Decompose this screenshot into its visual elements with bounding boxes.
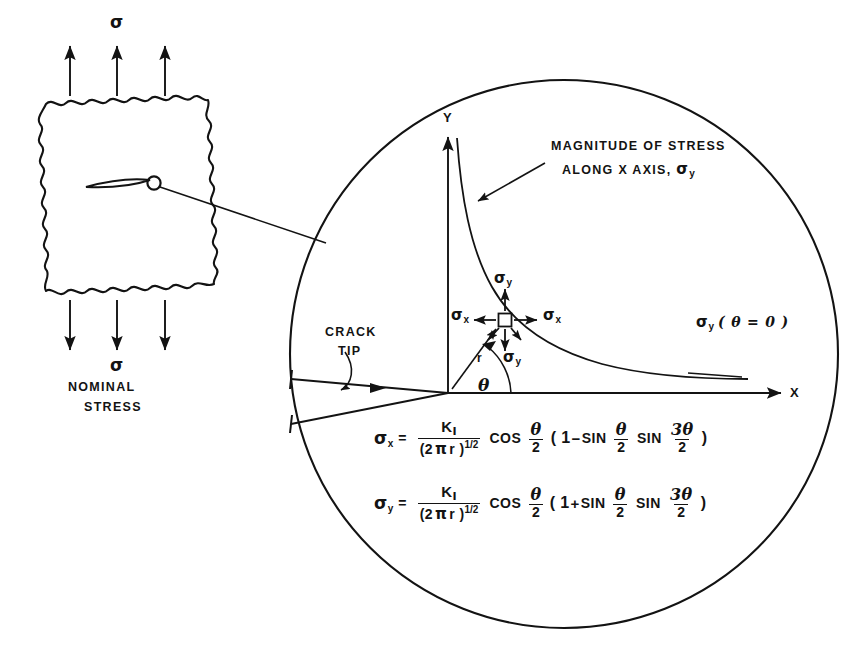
element-sigma-y-bottom-sigma: σ [503,348,515,366]
equation-sigma-y-cos: COS [489,495,521,511]
equation-sigma-x-sin2-num: 3θ [668,422,697,439]
equation-sigma-x-theta-over-2: θ 2 [528,422,545,454]
equation-sigma-x-sin2: SIN [637,430,662,446]
equation-sigma-x-theta-num: θ [528,422,545,439]
equation-sigma-y-numerator: KI [436,484,462,503]
equation-sigma-x-denominator-open: (2 [420,441,433,457]
equation-sigma-y-sin2-num: 3θ [667,487,696,504]
stress-element [452,289,537,393]
equation-sigma-y-denominator-exponent: 1/2 [465,504,479,515]
equation-sigma-x-sin1: SIN [582,430,607,446]
element-sigma-y-top-label: σy [494,269,512,288]
nominal-stress-symbol-bottom: σ [110,355,124,375]
x-axis-label: X [790,385,799,400]
equation-sigma-y-theta-over-2: θ 2 [528,487,545,519]
equation-sigma-x-sin2-fraction: 3θ 2 [668,422,697,454]
equation-sigma-x-sin1-fraction: θ 2 [613,422,630,454]
equation-sigma-x-denominator: (2πr )1/2 [418,438,481,457]
fracture-mechanics-diagram: σ σ NOMINAL STRESS Y X MAGNITUDE OF STRE… [0,0,866,655]
equation-sigma-y-sin1-den: 2 [613,504,627,520]
plate-crack [86,176,161,189]
equation-sigma-x-equals: = [398,430,407,446]
element-sigma-x-right-sigma: σ [543,306,555,324]
curve-right-label-leader [688,373,742,377]
equation-sigma-y-theta-den: 2 [529,504,543,520]
equation-sigma-x-sin2-den: 2 [675,439,689,455]
curve-right-label-sigma: σ [696,313,708,331]
equation-sigma-y-main-fraction: KI (2πr )1/2 [418,484,481,523]
equation-sigma-x-group-open: ( 1 [551,429,571,447]
equation-sigma-x-theta-den: 2 [529,439,543,455]
curve-annotation-sigma: σ [676,160,689,178]
equation-sigma-x-numerator-k: K [441,418,452,435]
equation-sigma-y-sin1: SIN [581,495,606,511]
element-sigma-x-left-subscript: x [463,314,469,325]
element-sigma-x-left-sigma: σ [451,306,463,324]
equation-sigma-y-sin2-fraction: 3θ 2 [667,487,696,519]
nominal-stress-caption-line2: STRESS [84,400,142,414]
top-load-arrows [70,46,165,96]
magnification-leader-line [160,187,326,243]
crack-tip-label-line1: CRACK [325,325,377,339]
crack-tip-highlight-circle [147,176,160,189]
nominal-stress-caption-line1: NOMINAL [68,380,135,394]
y-axis-label: Y [443,110,452,125]
theta-label: θ [478,375,490,395]
equation-sigma-x-denominator-r: r ) [449,441,464,457]
equation-sigma-y-lhs-sigma: σ [374,493,388,513]
equation-sigma-x-cos: COS [489,430,521,446]
equation-sigma-y-theta-num: θ [528,487,545,504]
equation-sigma-y-sin1-fraction: θ 2 [612,487,629,519]
element-sigma-x-right-label: σx [543,306,561,325]
equation-sigma-x-lhs-sigma: σ [374,428,388,448]
nominal-stress-symbol-top: σ [110,12,124,32]
curve-right-label: σy( θ = 0 ) [696,313,789,332]
equation-sigma-y-denominator: (2πr )1/2 [418,503,481,522]
equation-sigma-x-group-sign: − [571,430,582,447]
element-sigma-y-top-subscript: y [506,277,512,288]
equation-sigma-y-lhs-subscript: y [388,503,394,514]
equation-sigma-x-lhs: σx [374,428,393,449]
equation-sigma-x-numerator: KI [436,419,462,438]
curve-annotation-sigma-subscript: y [689,168,695,179]
crack-tip-label-line2: TIP [338,344,361,358]
equation-sigma-y-group-close: ) [701,494,707,512]
element-sigma-y-bottom-subscript: y [515,356,521,367]
equation-sigma-x-denominator-exponent: 1/2 [465,439,479,450]
equation-sigma-y-denominator-pi: π [433,505,449,523]
equation-sigma-y: σy = KI (2πr )1/2 COS θ 2 ( 1 + SIN θ 2 … [374,484,706,523]
equation-sigma-x-group-close: ) [702,429,708,447]
wavy-plate [39,96,218,294]
curve-annotation-line2-text: ALONG X AXIS, [562,163,676,177]
equation-sigma-x-main-fraction: KI (2πr )1/2 [418,419,481,458]
element-sigma-y-top-sigma: σ [494,269,506,287]
equation-sigma-x-numerator-subscript: I [452,425,457,438]
bottom-load-arrows [70,300,165,350]
equation-sigma-y-equals: = [398,495,407,511]
equation-sigma-y-group-sign: + [570,495,581,512]
element-sigma-y-bottom-label: σy [503,348,521,367]
equation-sigma-x-lhs-subscript: x [388,438,394,449]
equation-sigma-y-sin2: SIN [636,495,661,511]
element-sigma-x-left-label: σx [451,306,469,325]
curve-annotation-leader [478,163,545,201]
equation-sigma-y-sin1-num: θ [612,487,629,504]
curve-annotation-line2: ALONG X AXIS, σy [562,160,695,179]
equation-sigma-y-denominator-r: r ) [449,506,464,522]
radius-label-r: r [477,351,482,365]
shear-arrow-down-right [511,328,521,340]
equation-sigma-y-sin2-den: 2 [674,504,688,520]
curve-right-label-subscript: y [708,321,714,332]
equation-sigma-x-denominator-pi: π [433,440,449,458]
equation-sigma-y-group-open: ( 1 [550,494,570,512]
equation-sigma-x-sin1-den: 2 [614,439,628,455]
curve-annotation-line1: MAGNITUDE OF STRESS [551,139,726,153]
equation-sigma-y-denominator-open: (2 [420,506,433,522]
equation-sigma-y-numerator-subscript: I [452,490,457,503]
equation-sigma-x-sin1-num: θ [613,422,630,439]
equation-sigma-x: σx = KI (2πr )1/2 COS θ 2 ( 1 − SIN θ 2 … [374,419,707,458]
stress-element-square [499,314,512,327]
element-sigma-x-right-subscript: x [555,314,561,325]
equation-sigma-y-lhs: σy [374,493,393,514]
curve-right-label-argument: ( θ = 0 ) [718,314,789,330]
